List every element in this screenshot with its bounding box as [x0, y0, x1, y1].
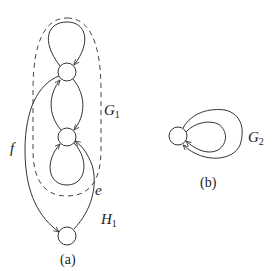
edge-middle-to-top	[51, 80, 61, 130]
graph-drawing	[0, 0, 272, 271]
edge-f	[25, 76, 59, 232]
label-h1-main: H	[101, 211, 112, 227]
label-e: e	[95, 183, 102, 198]
label-g1-sub: 1	[115, 109, 120, 120]
label-g1-main: G	[104, 102, 115, 118]
region-g1-dashed-boundary	[33, 18, 101, 196]
edge-middle-self-loop	[50, 143, 84, 185]
label-g2-sub: 2	[259, 136, 264, 147]
diagram-canvas: G1 f e H1 (a) G2 (b)	[0, 0, 272, 271]
label-h1-sub: 1	[112, 218, 117, 229]
node-g2	[169, 127, 187, 145]
label-g2: G2	[248, 130, 264, 147]
caption-b: (b)	[200, 176, 216, 190]
edge-g2-inner-loop	[186, 122, 226, 152]
edge-top-self-loop	[48, 22, 84, 66]
label-g2-main: G	[248, 129, 259, 145]
node-top	[58, 63, 76, 81]
node-bottom	[58, 227, 76, 245]
caption-a: (a)	[60, 253, 76, 267]
node-middle	[58, 128, 76, 146]
edge-top-to-middle	[73, 79, 83, 130]
label-h1: H1	[101, 212, 117, 229]
edge-e	[74, 141, 94, 229]
label-f: f	[10, 141, 14, 156]
label-g1: G1	[104, 103, 120, 120]
edge-g2-outer-loop	[183, 110, 242, 159]
